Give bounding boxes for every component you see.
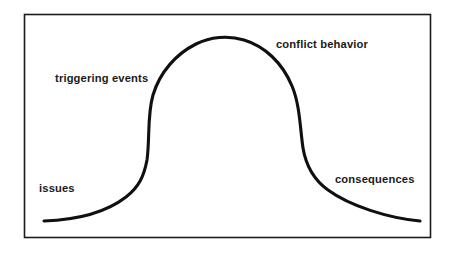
label-consequences: consequences [335, 173, 415, 185]
figure-border [25, 15, 431, 238]
label-conflict-behavior: conflict behavior [276, 38, 369, 50]
conflict-curve-figure: issues triggering events conflict behavi… [0, 0, 456, 255]
label-issues: issues [39, 182, 75, 194]
label-triggering-events: triggering events [55, 72, 148, 84]
